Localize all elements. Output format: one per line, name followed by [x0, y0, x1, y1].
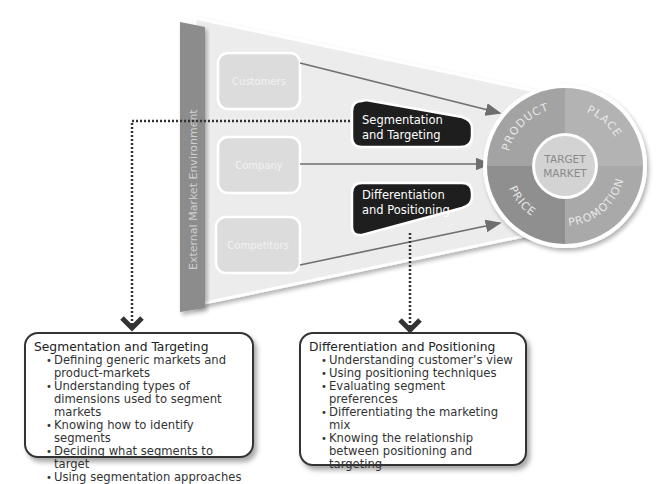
list-item: Defining generic markets and product-mar…	[46, 354, 244, 380]
list-item: Differentiating the marketing mix	[321, 406, 517, 432]
segmentation-card-list: Defining generic markets and product-mar…	[34, 354, 244, 484]
list-item: Knowing the relationship between positio…	[321, 432, 517, 471]
competitors-label: Competitors	[227, 240, 288, 251]
list-item: Understanding types of dimensions used t…	[46, 380, 244, 419]
list-item: Using segmentation approaches	[46, 471, 244, 484]
target-market-center	[535, 136, 595, 196]
list-item: Knowing how to identify segments	[46, 419, 244, 445]
differentiation-stage-line1: Differentiation	[362, 188, 445, 202]
marketing-strategy-diagram: External Market Environment Customers Co…	[0, 0, 661, 484]
target-market-wheel	[483, 84, 647, 248]
differentiation-stage-line2: and Positioning	[362, 203, 450, 217]
segmentation-stage-line1: Segmentation	[362, 113, 443, 127]
segmentation-stage-line2: and Targeting	[362, 128, 441, 142]
target-label-line1: TARGET	[543, 153, 586, 165]
differentiation-card-list: Understanding customer’s view Using posi…	[309, 354, 517, 471]
customers-label: Customers	[232, 76, 286, 87]
company-label: Company	[235, 160, 283, 171]
segmentation-targeting-card: Segmentation and Targeting Defining gene…	[24, 332, 254, 458]
list-item: Deciding what segments to target	[46, 445, 244, 471]
differentiation-card-title: Differentiation and Positioning	[309, 340, 517, 354]
external-environment-label: External Market Environment	[187, 109, 200, 270]
target-label-line2: MARKET	[543, 167, 587, 179]
list-item: Evaluating segment preferences	[321, 380, 517, 406]
differentiation-positioning-card: Differentiation and Positioning Understa…	[299, 332, 527, 466]
segmentation-card-title: Segmentation and Targeting	[34, 340, 244, 354]
